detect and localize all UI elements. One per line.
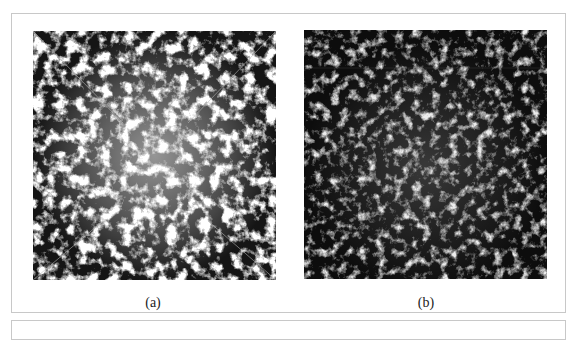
figure-frame: (a) (b)	[11, 13, 566, 313]
panel-b-image	[304, 30, 547, 279]
panel-a-image	[33, 31, 276, 280]
caption-b: (b)	[396, 295, 456, 311]
caption-a: (a)	[123, 295, 183, 311]
next-figure-frame	[11, 320, 566, 340]
